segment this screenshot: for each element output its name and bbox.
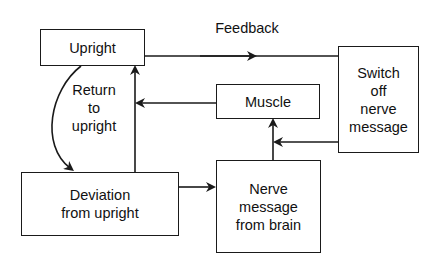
node-muscle-label: Muscle bbox=[245, 93, 291, 111]
node-deviation-line-1: Deviation bbox=[70, 186, 130, 204]
feedback-label: Feedback bbox=[212, 19, 282, 37]
node-switch-line-2: off bbox=[371, 82, 387, 100]
return-to-upright-label: Return to upright bbox=[62, 81, 126, 135]
node-muscle: Muscle bbox=[216, 84, 320, 119]
node-switch: Switch off nerve message bbox=[338, 46, 419, 153]
node-deviation: Deviation from upright bbox=[21, 172, 179, 236]
return-label-line-3: upright bbox=[62, 117, 126, 135]
node-switch-line-1: Switch bbox=[357, 64, 400, 82]
return-label-line-2: to bbox=[62, 99, 126, 117]
return-label-line-1: Return bbox=[62, 81, 126, 99]
node-nerve-line-2: message bbox=[239, 198, 298, 216]
node-deviation-line-2: from upright bbox=[61, 204, 138, 222]
node-nerve-line-3: from brain bbox=[236, 216, 301, 234]
node-upright-label: Upright bbox=[69, 39, 116, 57]
node-upright: Upright bbox=[40, 29, 145, 66]
node-switch-line-4: message bbox=[349, 118, 408, 136]
node-switch-line-3: nerve bbox=[360, 100, 396, 118]
node-nerve: Nerve message from brain bbox=[216, 160, 321, 253]
node-nerve-line-1: Nerve bbox=[249, 180, 288, 198]
